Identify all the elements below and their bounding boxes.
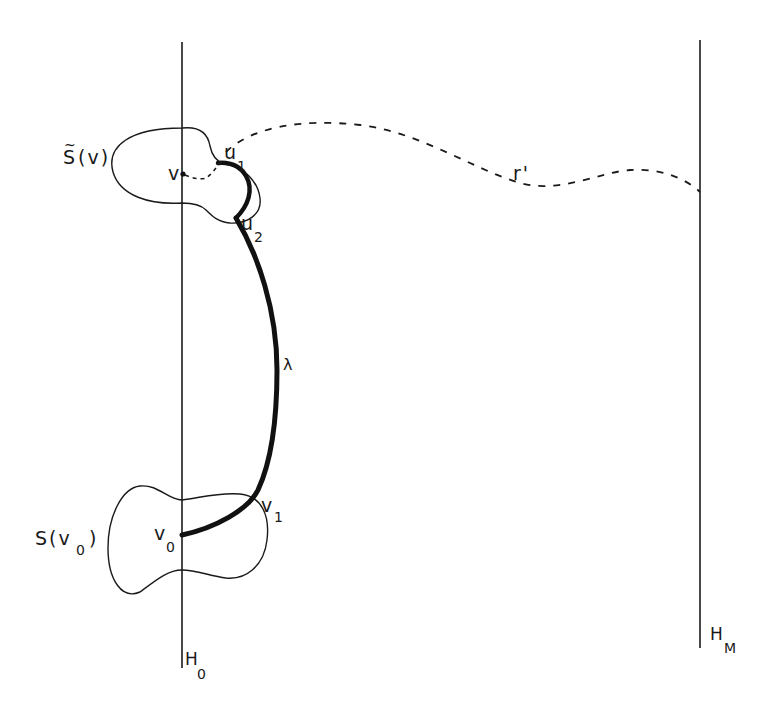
label-s-tilde-v: S ~ (v): [63, 137, 110, 168]
label-v: v: [168, 162, 181, 184]
svg-text:M: M: [724, 640, 736, 656]
label-v1: v 1: [261, 494, 283, 525]
diagram-canvas: S ~ (v) v u 1 u 2 r' λ S(v 0 ) v 0 v 1 H…: [0, 0, 777, 721]
svg-text:~: ~: [64, 137, 78, 153]
label-u2: u 2: [241, 212, 263, 245]
svg-text:1: 1: [237, 158, 246, 174]
label-u1: u 1: [224, 141, 246, 174]
svg-text:0: 0: [166, 539, 175, 555]
label-v0: v 0: [154, 522, 175, 555]
svg-text:H: H: [710, 624, 725, 644]
svg-text:0: 0: [197, 666, 206, 682]
svg-text:): ): [89, 527, 98, 549]
label-hm: H M: [710, 624, 736, 656]
svg-text:0: 0: [76, 542, 85, 558]
label-lambda: λ: [283, 355, 294, 374]
dashed-curve-r-prime: [226, 123, 700, 192]
svg-text:1: 1: [274, 509, 283, 525]
svg-text:u: u: [241, 212, 255, 234]
svg-text:u: u: [224, 141, 238, 163]
label-s-v0: S(v 0 ): [35, 527, 98, 558]
svg-text:(v): (v): [78, 146, 110, 168]
svg-text:v: v: [261, 494, 274, 516]
label-h0: H 0: [185, 649, 206, 682]
diagram-svg: S ~ (v) v u 1 u 2 r' λ S(v 0 ) v 0 v 1 H…: [0, 0, 777, 721]
lower-region-s-v0: [108, 486, 268, 594]
path-lambda: [182, 218, 277, 535]
svg-text:2: 2: [254, 229, 263, 245]
label-r-prime: r': [513, 162, 530, 184]
svg-text:S(v: S(v: [35, 527, 72, 549]
